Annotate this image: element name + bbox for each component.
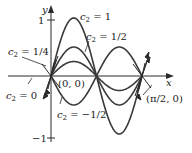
solution-curves-figure: y x 1 −1 (0, 0) (π/2, 0) c2 = 1 c2 = 1/2… [0,0,192,153]
y-tick-label-neg1: −1 [32,133,47,144]
y-axis-label: y [41,4,48,15]
arrowhead-icon [145,52,149,59]
y-axis-arrow-icon [48,5,54,13]
curve-label-c2-half: c2 = 1/2 [86,31,127,44]
origin-point-label: (0, 0) [58,78,85,89]
axes [8,9,170,142]
x-axis-label: x [166,77,172,88]
y-tick-label-1: 1 [38,15,44,26]
curve-label-c2-0: c2 = 0 [6,90,37,103]
endpoint-label: (π/2, 0) [146,93,183,104]
curve-label-c2-quarter: c2 = 1/4 [8,46,49,59]
curve-label-c2-1: c2 = 1 [80,11,111,24]
curve-label-c2-neg-half: c2 = −1/2 [57,109,106,122]
